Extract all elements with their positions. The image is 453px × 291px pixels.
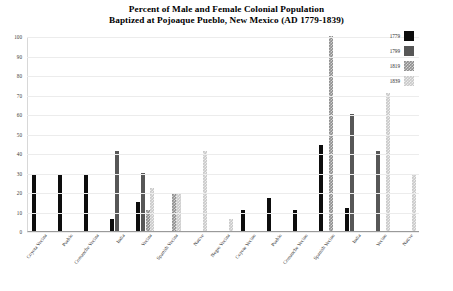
bar — [203, 151, 207, 231]
bar — [229, 219, 233, 231]
x-axis-tick-label: Coyote Vecino — [235, 233, 257, 260]
x-axis-tick-label: Pueblo — [61, 233, 74, 247]
x-axis-tick-label: Coyota Vecina — [26, 233, 48, 260]
x-axis-tick-label: Native — [402, 233, 414, 247]
chart-title: Percent of Male and Female Colonial Popu… — [0, 4, 453, 26]
gridline — [27, 76, 419, 77]
y-axis-tick-label: 40 — [2, 151, 22, 157]
legend-swatch-1819 — [404, 61, 414, 71]
legend-item-label: 1799 — [381, 48, 400, 54]
y-axis-tick-label: 60 — [2, 112, 22, 118]
chart-title-line-2: Baptized at Pojoaque Pueblo, New Mexico … — [0, 15, 453, 26]
x-axis-tick-label: Native — [192, 233, 204, 247]
legend-item-label: 1819 — [381, 63, 400, 69]
legend-item-label: 1779 — [381, 33, 400, 39]
chart-title-line-1: Percent of Male and Female Colonial Popu… — [0, 4, 453, 15]
chart-legend: 1779179918191839 — [381, 29, 439, 89]
legend-swatch-1779 — [404, 31, 414, 41]
bars-layer — [28, 37, 419, 231]
gridline — [27, 115, 419, 116]
bar — [84, 174, 88, 231]
x-axis-tick-label: Comanche Vecina — [74, 233, 101, 265]
y-axis-tick-label: 10 — [2, 210, 22, 216]
legend-item-label: 1839 — [381, 78, 400, 84]
bar — [141, 173, 145, 232]
y-axis-tick-label: 80 — [2, 73, 22, 79]
legend-item[interactable]: 1839 — [381, 74, 439, 87]
gridline — [27, 96, 419, 97]
legend-item[interactable]: 1799 — [381, 44, 439, 57]
x-axis-tick-label: Pueblo — [271, 233, 284, 247]
x-axis-tick-labels: Coyota VecinaPuebloComanche VecinaIndiaV… — [27, 233, 427, 291]
gridline — [27, 37, 419, 38]
y-axis-tick-label: 50 — [2, 132, 22, 138]
bar — [319, 145, 323, 231]
chart-container: Percent of Male and Female Colonial Popu… — [0, 0, 453, 291]
bar — [329, 36, 333, 231]
legend-swatch-1839 — [404, 76, 414, 86]
x-axis-tick-label: Spanish Vecina — [155, 233, 178, 261]
bar — [150, 188, 154, 231]
legend-item[interactable]: 1779 — [381, 29, 439, 42]
x-axis-tick-label: India — [116, 233, 126, 244]
x-axis-tick-label: Spanish Vecino — [312, 233, 335, 261]
gridline — [27, 57, 419, 58]
bar — [412, 174, 416, 231]
bar — [345, 208, 349, 231]
gridline — [27, 135, 419, 136]
gridline — [27, 154, 419, 155]
y-axis-tick-label: 0 — [2, 229, 22, 235]
bar — [115, 151, 119, 231]
bar — [58, 174, 62, 231]
gridline — [27, 213, 419, 214]
x-axis-tick-label: Comanche Vecino — [282, 233, 309, 265]
y-axis-tick-label: 100 — [2, 34, 22, 40]
y-axis-tick-label: 30 — [2, 171, 22, 177]
y-axis-tick-label: 20 — [2, 190, 22, 196]
x-axis-tick-label: Negro Vecina — [210, 233, 231, 258]
y-axis-tick-label: 70 — [2, 93, 22, 99]
bar — [32, 174, 36, 231]
bar — [386, 93, 390, 231]
bar — [376, 151, 380, 231]
x-axis-tick-label: India — [351, 233, 361, 244]
x-axis-tick-label: Vecino — [375, 233, 388, 247]
x-axis-tick-label: Vecina — [140, 233, 153, 247]
bar — [267, 198, 271, 231]
bar — [110, 219, 114, 231]
gridline — [27, 174, 419, 175]
bar — [136, 202, 140, 231]
legend-item[interactable]: 1819 — [381, 59, 439, 72]
y-axis-tick-label: 90 — [2, 54, 22, 60]
gridline — [27, 193, 419, 194]
legend-swatch-1799 — [404, 46, 414, 56]
